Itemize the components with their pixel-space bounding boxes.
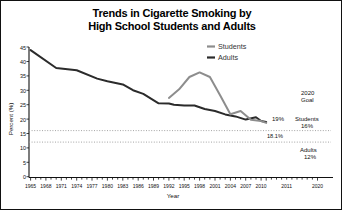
- x-tick-1983: 1983: [117, 183, 128, 189]
- y-tick-15: 15: [20, 131, 26, 137]
- x-tick-2001: 2001: [209, 183, 220, 189]
- y-tick-40: 40: [20, 59, 26, 65]
- students-endpoint-value: 18.1%: [267, 133, 283, 139]
- y-axis-title: Percent (%): [7, 103, 14, 136]
- goal-header-label: Goal: [301, 97, 314, 103]
- x-tick-1974: 1974: [71, 183, 82, 189]
- chart-plot-area: Percent (%) 45 40 35 30 25 20 15 10 5 0: [1, 1, 342, 210]
- y-tick-5: 5: [23, 160, 26, 166]
- x-tick-1986: 1986: [133, 183, 144, 189]
- series-line-students: [169, 72, 266, 123]
- x-tick-1998: 1998: [194, 183, 205, 189]
- x-axis-ticklabels: 1965 1968 1971 1974 1977 1980 1983 1986 …: [25, 183, 323, 189]
- x-tick-2011: 2011: [281, 183, 292, 189]
- y-tick-30: 30: [20, 88, 26, 94]
- adults-goal-value: 12%: [304, 154, 317, 160]
- y-tick-25: 25: [20, 102, 26, 108]
- x-axis-title: Year: [167, 192, 180, 199]
- x-tick-1968: 1968: [40, 183, 51, 189]
- x-tick-2007: 2007: [240, 183, 251, 189]
- x-tick-1992: 1992: [163, 183, 174, 189]
- legend-label-students: Students: [218, 42, 247, 51]
- x-tick-1995: 1995: [179, 183, 190, 189]
- students-current-value: 19%: [272, 116, 285, 122]
- x-tick-2020: 2020: [312, 183, 323, 189]
- legend-label-adults: Adults: [218, 53, 238, 62]
- goal-header-year: 2020: [301, 90, 315, 96]
- x-tick-1980: 1980: [102, 183, 113, 189]
- y-tick-10: 10: [20, 145, 26, 151]
- y-tick-20: 20: [20, 117, 26, 123]
- chart-legend: Students Adults: [207, 42, 247, 62]
- students-goal-name: Students: [295, 116, 319, 122]
- x-tick-1971: 1971: [56, 183, 67, 189]
- y-axis-ticklabels: 45 40 35 30 25 20 15 10 5 0: [20, 45, 26, 181]
- y-tick-0: 0: [23, 174, 26, 180]
- x-tick-2004: 2004: [225, 183, 236, 189]
- x-tick-2010: 2010: [256, 183, 267, 189]
- x-tick-1989: 1989: [148, 183, 159, 189]
- adults-goal-name: Adults: [300, 147, 317, 153]
- y-tick-35: 35: [20, 73, 26, 79]
- y-tick-45: 45: [20, 45, 26, 51]
- goal-annotations: 2020 Goal 19% Students 16% 18.1% Adults …: [267, 90, 319, 161]
- x-tick-1965: 1965: [25, 183, 36, 189]
- x-tick-1977: 1977: [86, 183, 97, 189]
- students-goal-value: 16%: [301, 123, 314, 129]
- chart-frame: Trends in Cigarette Smoking by High Scho…: [0, 0, 342, 210]
